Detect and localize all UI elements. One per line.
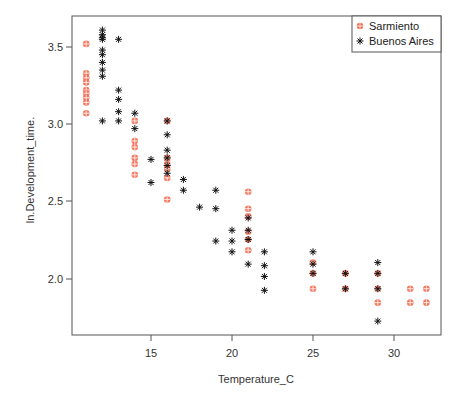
point-marker — [132, 172, 139, 179]
point-marker — [245, 205, 252, 212]
x-tick-label: 20 — [226, 347, 238, 359]
point-marker — [229, 238, 236, 245]
point-marker — [261, 273, 268, 280]
point-marker — [83, 110, 90, 117]
plot-frame — [72, 16, 441, 335]
point-marker — [261, 262, 268, 269]
point-marker — [83, 79, 90, 86]
point-marker — [374, 270, 381, 277]
point-marker — [99, 67, 106, 74]
point-marker — [99, 51, 106, 58]
point-marker — [83, 99, 90, 106]
point-marker — [148, 179, 155, 186]
point-marker — [245, 188, 252, 195]
point-marker — [148, 156, 155, 163]
y-axis: 2.0 2.5 3.0 3.5 ln.Development_time. — [24, 41, 72, 285]
point-marker — [164, 131, 171, 138]
point-marker — [310, 261, 317, 268]
point-marker — [164, 162, 171, 169]
point-marker — [164, 170, 171, 177]
point-marker — [132, 118, 139, 125]
point-marker — [342, 270, 349, 277]
x-tick-label: 15 — [145, 347, 157, 359]
x-tick-label: 30 — [388, 347, 400, 359]
point-marker — [229, 227, 236, 234]
point-marker — [245, 247, 252, 254]
point-marker — [375, 299, 382, 306]
point-marker — [374, 259, 381, 266]
legend-label-sarmiento: Sarmiento — [369, 20, 419, 32]
legend-marker-buenos-aires-icon — [357, 38, 364, 45]
point-marker — [132, 161, 139, 168]
point-marker — [164, 147, 171, 154]
point-marker — [310, 270, 317, 277]
x-tick-label: 25 — [307, 347, 319, 359]
point-marker — [132, 144, 139, 151]
point-marker — [115, 117, 122, 124]
point-marker — [407, 285, 414, 292]
point-marker — [99, 117, 106, 124]
point-marker — [212, 238, 219, 245]
point-marker — [131, 125, 138, 132]
point-marker — [212, 187, 219, 194]
y-tick-label: 2.0 — [48, 273, 63, 285]
series-sarmiento — [83, 41, 430, 306]
point-marker — [212, 205, 219, 212]
point-marker — [245, 214, 252, 221]
y-tick-label: 3.5 — [48, 41, 63, 53]
point-marker — [164, 196, 171, 203]
point-marker — [196, 204, 203, 211]
scatter-chart: 15 20 25 30 Temperature_C 2.0 2.5 3.0 3.… — [0, 0, 463, 398]
point-marker — [115, 36, 122, 43]
point-marker — [310, 248, 317, 255]
point-marker — [245, 227, 252, 234]
point-marker — [164, 154, 171, 161]
series-buenos-aires — [99, 27, 381, 325]
legend-label-buenos-aires: Buenos Aires — [369, 35, 434, 47]
point-marker — [261, 248, 268, 255]
point-marker — [423, 285, 430, 292]
legend: Sarmiento Buenos Aires — [352, 16, 441, 52]
point-marker — [342, 285, 349, 292]
point-marker — [374, 285, 381, 292]
point-marker — [423, 299, 430, 306]
point-marker — [245, 261, 252, 268]
point-marker — [115, 108, 122, 115]
point-marker — [115, 96, 122, 103]
point-marker — [180, 187, 187, 194]
point-marker — [374, 318, 381, 325]
point-marker — [407, 299, 414, 306]
point-marker — [115, 87, 122, 94]
x-axis: 15 20 25 30 Temperature_C — [145, 335, 400, 385]
y-axis-title: ln.Development_time. — [24, 117, 36, 223]
legend-marker-sarmiento-icon — [357, 23, 363, 29]
point-marker — [132, 138, 139, 145]
data-points — [83, 27, 430, 325]
point-marker — [164, 117, 171, 124]
y-tick-label: 2.5 — [48, 195, 63, 207]
x-axis-title: Temperature_C — [218, 373, 294, 385]
point-marker — [99, 36, 106, 43]
point-marker — [83, 41, 90, 48]
point-marker — [245, 236, 252, 243]
point-marker — [131, 110, 138, 117]
point-marker — [261, 287, 268, 294]
point-marker — [180, 176, 187, 183]
point-marker — [99, 73, 106, 80]
point-marker — [229, 248, 236, 255]
y-tick-label: 3.0 — [48, 118, 63, 130]
point-marker — [99, 59, 106, 66]
point-marker — [132, 155, 139, 162]
point-marker — [310, 285, 317, 292]
